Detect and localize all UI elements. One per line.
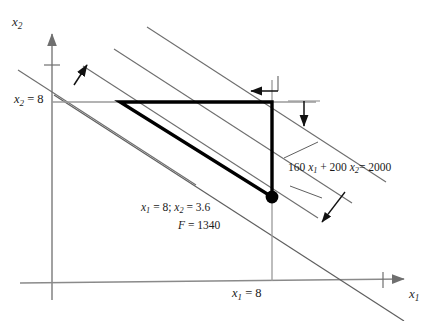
isoline-1 xyxy=(18,70,196,185)
objective-label-leader-lower xyxy=(290,186,322,198)
gradient-direction-arrow xyxy=(74,65,87,85)
constraint-line-160x1-200x2 xyxy=(54,95,404,321)
x-axis-line xyxy=(20,279,404,283)
optimum-coordinates-label: x1 = 8; x2 = 3.6 xyxy=(141,201,210,215)
objective-label-leader-arrow xyxy=(322,192,345,222)
gradient-direction-arrow-group xyxy=(74,65,87,85)
constraint-line-group xyxy=(54,95,404,321)
x2-constraint-label: x2 = 8 xyxy=(14,93,44,108)
objective-value-label: F = 1340 xyxy=(178,219,220,232)
objective-label-leader-upper xyxy=(284,142,318,158)
isoline-3 xyxy=(114,49,352,203)
isoline-4 xyxy=(147,27,386,182)
y-axis-label: x2 xyxy=(12,14,22,31)
objective-label-leaders-group xyxy=(284,142,345,222)
constraint-x1-group xyxy=(272,80,383,288)
feasible-region-outline xyxy=(120,102,272,197)
optimum-point-group xyxy=(266,191,279,204)
x-axis-label: x1 xyxy=(409,286,419,303)
constraint-x2-group xyxy=(44,65,316,102)
optimum-point-marker xyxy=(266,191,279,204)
linear-programming-figure: x2 x1 x2 = 8 x1 = 8 160 x1 + 200 x2= 200… xyxy=(0,0,440,321)
objective-equation-label: 160 x1 + 200 x2= 2000 xyxy=(288,161,391,175)
x2-constraint-pointer-group xyxy=(288,101,320,126)
feasible-region-group xyxy=(120,102,272,197)
x1-constraint-label: x1 = 8 xyxy=(232,287,262,302)
x1-constraint-pointer-group xyxy=(251,76,278,91)
objective-isolines-group xyxy=(18,27,386,218)
isoline-2 xyxy=(83,66,318,218)
